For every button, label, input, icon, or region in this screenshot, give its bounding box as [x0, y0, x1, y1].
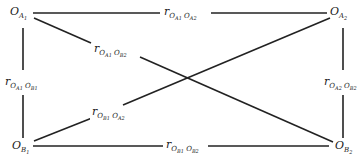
edge-label-ob1-ob2: rOB1 OB2	[164, 139, 201, 154]
edge-label-oa1-ob2: rOA1 OB2	[92, 43, 129, 58]
edge-label-oa1-oa2: rOA1 OA2	[162, 6, 199, 21]
node-ob2: OB2	[335, 140, 352, 155]
edge-label-ob1-oa2: rOB1 OA2	[90, 106, 127, 121]
edge-oa1-ob2-upper	[34, 18, 91, 43]
edge-ob1-oa2-lower	[34, 118, 92, 141]
edge-label-oa2-ob2: rOA2 OB2	[322, 76, 359, 91]
node-ob1: OB1	[12, 140, 29, 155]
edge-label-oa1-ob1: rOA1 OB1	[3, 76, 40, 91]
diagram-lines	[0, 0, 363, 156]
edge-oa1-ob2-lower	[140, 57, 333, 142]
node-oa1: OA1	[10, 6, 27, 21]
node-oa2: OA2	[330, 6, 347, 21]
edge-ob1-oa2-upper	[123, 18, 330, 105]
